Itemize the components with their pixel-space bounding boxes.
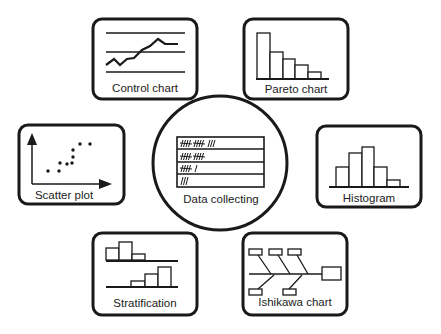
pareto-chart-label: Pareto chart bbox=[265, 83, 328, 95]
stratification-card: Stratification bbox=[93, 233, 197, 315]
seven-qc-tools-diagram: Control chart Pareto chart bbox=[0, 0, 441, 334]
stratification-label: Stratification bbox=[113, 297, 176, 309]
data-collecting-hub: Data collecting bbox=[153, 96, 287, 230]
tally-sheet-icon bbox=[177, 137, 264, 187]
control-chart-card: Control chart bbox=[93, 19, 197, 99]
histogram-label: Histogram bbox=[343, 192, 395, 204]
data-collecting-label: Data collecting bbox=[183, 193, 258, 205]
ishikawa-chart-label: Ishikawa chart bbox=[258, 296, 332, 308]
ishikawa-chart-card: Ishikawa chart bbox=[243, 233, 347, 315]
histogram-card: Histogram bbox=[317, 126, 421, 207]
pareto-chart-card: Pareto chart bbox=[244, 19, 348, 99]
scatter-plot-label: Scatter plot bbox=[35, 189, 94, 201]
control-chart-label: Control chart bbox=[112, 82, 179, 94]
scatter-plot-card: Scatter plot bbox=[19, 125, 124, 204]
